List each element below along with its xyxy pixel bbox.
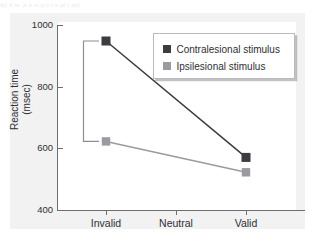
chart-legend: Contralesional stimulus Ipsilesional sti… [153,33,295,79]
y-axis-tick [58,25,63,26]
legend-entry-contralesional: Contralesional stimulus [163,42,280,56]
legend-label-contralesional: Contralesional stimulus [177,44,280,55]
x-axis-tick-label-invalid: Invalid [71,218,141,229]
x-axis-line [57,210,305,211]
y-axis-tick [58,210,63,211]
x-axis-tick [246,210,247,215]
x-axis-tick [176,210,177,215]
y-axis-tick [58,87,63,88]
y-axis-tick-label-400: 400 [19,205,53,215]
y-axis-tick [58,148,63,149]
y-axis-title: Reaction time (msec) [9,54,32,146]
y-axis-title-line2: (msec) [20,54,32,146]
legend-swatch-icon-ipsilesional [163,62,171,70]
x-axis-tick-label-valid: Valid [211,218,281,229]
cut-off-caption-text: lp) tl re ,h e m p n t u pl ( sp) [0,0,329,11]
legend-swatch-icon-contralesional [163,45,171,53]
y-axis-tick-label-1000: 1000 [19,20,53,30]
x-axis-tick [106,210,107,215]
figure-container: lp) tl re ,h e m p n t u pl ( sp) 1000 8… [0,0,329,242]
y-axis-line [57,25,58,211]
legend-label-ipsilesional: Ipsilesional stimulus [177,61,266,72]
x-axis-tick-label-neutral: Neutral [141,218,211,229]
y-axis-title-line1: Reaction time [9,69,20,130]
legend-entry-ipsilesional: Ipsilesional stimulus [163,59,265,73]
